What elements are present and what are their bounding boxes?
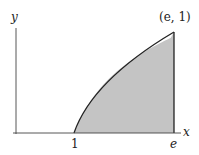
point-label-e-1: (e, 1) [159, 10, 191, 24]
y-axis-label: y [10, 10, 18, 24]
tick-label-one: 1 [71, 137, 79, 151]
x-axis-label: x [183, 125, 190, 139]
ln-area-diagram: y x 1 e (e, 1) [0, 0, 199, 155]
shaded-region [74, 32, 174, 133]
tick-label-e: e [170, 137, 177, 151]
